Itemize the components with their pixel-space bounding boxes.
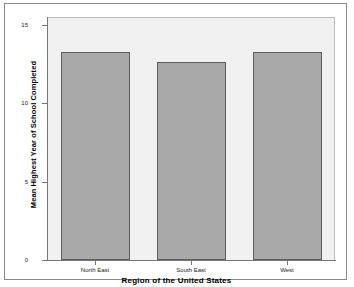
- bar: [157, 62, 226, 260]
- x-axis-tick-label: North East: [55, 267, 135, 274]
- y-axis-title: Mean Highest Year of School Completed: [29, 35, 38, 235]
- x-axis-tick: [287, 261, 288, 265]
- y-axis-tick: [42, 260, 47, 261]
- x-axis-tick-label: West: [247, 267, 327, 274]
- x-axis-title: Region of the United States: [5, 276, 348, 285]
- y-axis-tick-label: 10: [21, 100, 28, 106]
- y-axis-tick-label: 15: [21, 22, 28, 28]
- bar: [61, 52, 130, 260]
- x-axis-tick: [95, 261, 96, 265]
- chart-frame: 051015 North EastSouth EastWest Mean Hig…: [4, 3, 347, 280]
- y-axis-tick: [42, 182, 47, 183]
- x-axis-tick-label: South East: [151, 267, 231, 274]
- x-axis-tick: [191, 261, 192, 265]
- y-axis-tick-label: 0: [25, 257, 28, 263]
- y-axis-tick: [42, 103, 47, 104]
- y-axis-line: [47, 17, 48, 261]
- y-axis-tick: [42, 25, 47, 26]
- bar: [253, 52, 322, 260]
- y-axis-tick-label: 5: [25, 179, 28, 185]
